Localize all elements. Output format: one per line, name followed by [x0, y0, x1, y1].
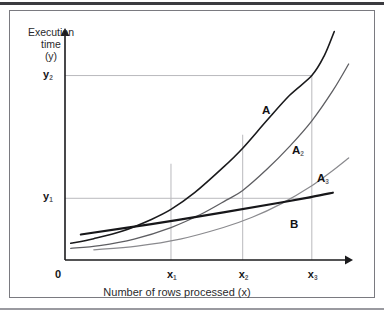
x-tick-origin-base: 0: [55, 268, 61, 280]
y-axis-title-line1: Execution: [12, 26, 90, 38]
curve-label-A-base: A: [262, 104, 270, 116]
y-axis-title: Execution time (y): [12, 26, 90, 62]
curve-label-B-base: B: [290, 218, 298, 230]
curve-label-A2: A2: [292, 144, 304, 157]
figure-frame: Execution time (y) Number of rows proces…: [0, 0, 384, 314]
curve-A: [71, 31, 335, 243]
y-tick-y1-subscript: 1: [49, 196, 53, 203]
curve-label-A3-subscript: 3: [325, 178, 329, 185]
x-tick-x2: x2: [239, 268, 249, 281]
y-axis-title-line2: time: [12, 38, 90, 50]
x-tick-x3-subscript: 3: [314, 274, 318, 281]
y-tick-y2: y2: [43, 68, 53, 81]
x-axis-title: Number of rows processed (x): [74, 286, 280, 299]
x-tick-x3: x3: [308, 268, 318, 281]
x-tick-x2-subscript: 2: [245, 274, 249, 281]
scan-edge-bottom: [0, 308, 384, 310]
curve-label-A3: A3: [317, 172, 329, 185]
curve-label-A: A: [262, 104, 270, 117]
scan-edge-top: [0, 2, 384, 5]
x-tick-x1: x1: [167, 268, 177, 281]
x-tick-x1-subscript: 1: [173, 274, 177, 281]
curve-label-B: B: [290, 218, 298, 231]
curve-label-A2-subscript: 2: [300, 150, 304, 157]
x-tick-origin: 0: [55, 268, 61, 281]
y-axis-title-line3: (y): [12, 50, 90, 62]
y-tick-y1: y1: [43, 190, 53, 203]
curve-A2: [71, 64, 349, 248]
x-axis-arrow: [345, 256, 353, 265]
y-tick-y2-subscript: 2: [49, 74, 53, 81]
curve-A3: [94, 158, 349, 250]
